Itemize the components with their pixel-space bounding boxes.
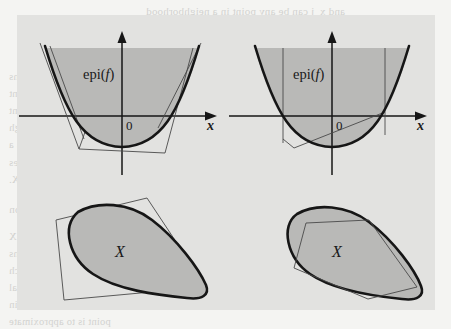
figure-svg bbox=[17, 15, 435, 310]
set-X-outline-bottom-left bbox=[69, 205, 207, 299]
label-axis-x-top-right: x bbox=[417, 118, 424, 134]
label-axis-x-top-left: x bbox=[207, 118, 214, 134]
panel-top-right bbox=[229, 31, 427, 175]
figure-page: and x_j can be any point in a neighborho… bbox=[0, 0, 451, 329]
label-origin-top-left: 0 bbox=[126, 118, 133, 134]
y-axis-arrow-top-left bbox=[118, 31, 127, 43]
figure-panel: epi(f) 0 x epi(f) 0 x X X bbox=[17, 15, 435, 310]
panel-bottom-right bbox=[288, 207, 422, 299]
bleed-text-line: point is to approximate bbox=[9, 316, 111, 327]
label-epigraph-top-right: epi(f) bbox=[293, 66, 324, 83]
panel-top-left bbox=[19, 31, 217, 175]
label-set-X-bottom-right: X bbox=[332, 243, 342, 261]
label-origin-top-right: 0 bbox=[336, 118, 343, 134]
label-set-X-bottom-left: X bbox=[115, 243, 125, 261]
panel-bottom-left bbox=[56, 198, 207, 300]
y-axis-arrow-top-right bbox=[328, 31, 337, 43]
label-epigraph-top-left: epi(f) bbox=[83, 66, 114, 83]
chord-lower-left bbox=[283, 139, 294, 148]
